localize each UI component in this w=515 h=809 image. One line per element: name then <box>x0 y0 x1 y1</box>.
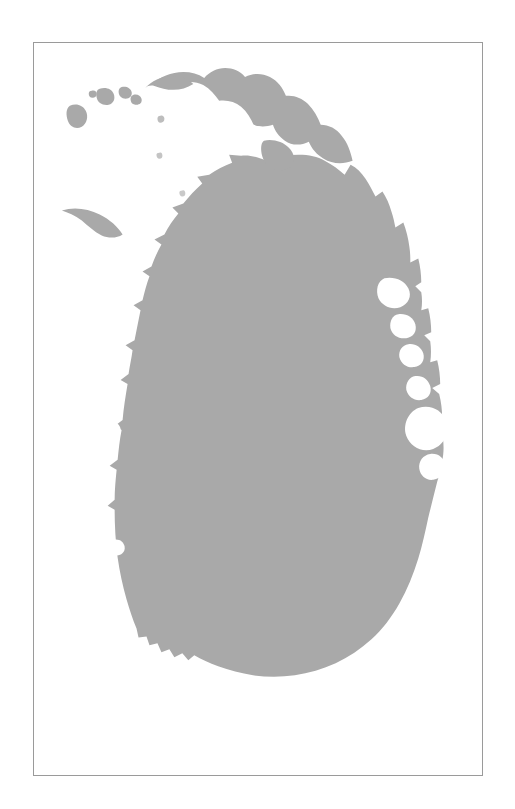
small-islet-a <box>89 91 97 98</box>
small-islet-b <box>157 116 164 123</box>
page-root <box>0 0 515 809</box>
map-frame <box>33 42 483 776</box>
sri-lanka-map-svg <box>34 43 482 775</box>
east-coast-cut-5 <box>419 454 445 480</box>
batticaloa-lagoon-cut <box>405 407 447 450</box>
